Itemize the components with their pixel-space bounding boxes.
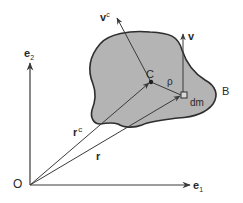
r-label: r — [96, 150, 101, 162]
rho-label: ρ — [167, 76, 173, 87]
rigid-body-diagram: O e1 e2 B C ρ dm v vc rc r — [0, 0, 243, 203]
center-label: C — [146, 68, 154, 80]
center-of-mass-point — [149, 80, 153, 84]
rc-label: rc — [73, 125, 82, 138]
diagram-canvas: O e1 e2 B C ρ dm v vc rc r — [0, 0, 243, 203]
rc-vector — [30, 83, 149, 185]
origin-label: O — [13, 177, 22, 191]
e2-label: e2 — [24, 47, 34, 61]
dm-label: dm — [190, 97, 204, 108]
mass-element-square — [181, 92, 187, 98]
body-label: B — [222, 85, 229, 97]
e1-label: e1 — [193, 179, 203, 193]
v-label: v — [188, 30, 195, 42]
vc-label: vc — [100, 11, 110, 23]
